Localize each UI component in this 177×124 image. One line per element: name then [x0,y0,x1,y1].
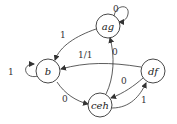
edge-label-ag-b: 1 [60,30,66,40]
edge-label-df-ceh: 0 [121,76,127,86]
edge-label-df-b: 1/1 [78,50,92,60]
node-label-b: b [45,66,51,77]
node-label-ag: ag [102,21,114,32]
edge-label-b-ceh: 0 [62,94,68,104]
node-b: b [36,59,60,83]
node-df: df [141,59,165,83]
node-ceh: ceh [88,93,112,117]
edge-label-ceh-ag: 0 [112,47,118,57]
edge-label-ceh-df: 1 [141,95,147,105]
edge-df-to-b [61,63,141,69]
node-label-ceh: ceh [91,100,109,111]
edge-label-b-self: 1 [8,67,14,77]
edge-label-ag-self: 0 [113,4,119,14]
node-ag: ag [96,14,120,38]
state-diagram: 0 1 1 1/1 0 0 0 1 ag b df ceh [0,0,177,124]
